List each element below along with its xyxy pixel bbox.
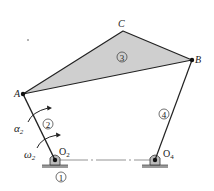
stray-dot	[27, 39, 29, 41]
label-o2: O2	[59, 146, 70, 159]
svg-text:3: 3	[120, 53, 125, 63]
svg-text:1: 1	[59, 173, 64, 183]
svg-text:2: 2	[46, 120, 51, 130]
pivot-o4	[153, 158, 157, 162]
label-a: A	[13, 88, 21, 99]
joint-a	[21, 92, 25, 96]
label-o4: O4	[163, 148, 174, 161]
link-number-4: 4	[159, 109, 169, 120]
joint-b	[190, 58, 194, 62]
linkage-diagram: A C B O2 O4 α2 ω2 1 2 3 4	[0, 0, 214, 191]
label-omega2: ω2	[24, 148, 36, 162]
omega-arrow-icon	[37, 133, 61, 149]
link-number-1: 1	[56, 172, 66, 183]
pivot-o2	[53, 158, 57, 162]
label-b: B	[195, 54, 201, 65]
link-number-2: 2	[43, 119, 53, 130]
svg-text:4: 4	[162, 110, 167, 120]
label-alpha2: α2	[14, 122, 24, 136]
coupler-link-3	[23, 31, 192, 94]
label-c: C	[118, 18, 125, 29]
